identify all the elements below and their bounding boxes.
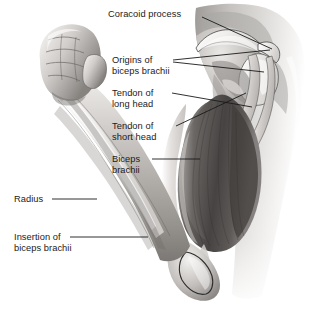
label-line: Radius	[14, 194, 43, 205]
label-origins-of-biceps-brachii: Origins ofbiceps brachii	[112, 55, 170, 77]
label-tendon-of-short-head: Tendon ofshort head	[112, 121, 156, 143]
label-line: short head	[112, 132, 156, 143]
label-line: long head	[112, 99, 153, 110]
label-insertion-of-biceps-brachii: Insertion ofbiceps brachii	[14, 232, 72, 254]
label-tendon-of-long-head: Tendon oflong head	[112, 88, 153, 110]
label-line: Insertion of	[14, 232, 72, 243]
label-line: Tendon of	[112, 88, 153, 99]
label-line: Biceps	[112, 154, 140, 165]
anatomy-figure: Coracoid processOrigins ofbiceps brachii…	[0, 0, 310, 310]
label-line: biceps brachii	[112, 66, 170, 77]
label-line: brachii	[112, 165, 140, 176]
label-line: Origins of	[112, 55, 170, 66]
label-line: Tendon of	[112, 121, 156, 132]
label-biceps-brachii: Bicepsbrachii	[112, 154, 140, 176]
label-line: biceps brachii	[14, 243, 72, 254]
label-line: Coracoid process	[108, 9, 181, 20]
label-coracoid-process: Coracoid process	[108, 9, 181, 20]
label-radius: Radius	[14, 194, 43, 205]
label-layer: Coracoid processOrigins ofbiceps brachii…	[0, 0, 310, 310]
